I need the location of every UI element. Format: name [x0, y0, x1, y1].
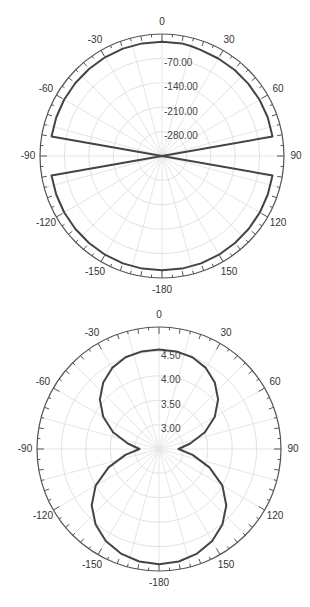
radial-label: -280.00	[164, 130, 198, 141]
radial-label: 3.50	[161, 399, 181, 410]
polar-chart-bottom: 0306090120150-180-150-120-90-60-304.504.…	[0, 300, 310, 607]
angle-label: 150	[218, 559, 235, 570]
angle-label: 0	[159, 16, 165, 27]
angle-label: 0	[156, 309, 162, 320]
polar-plot-bottom: 0306090120150-180-150-120-90-60-304.504.…	[0, 300, 310, 607]
angle-label: -120	[33, 510, 53, 521]
angle-label: -60	[39, 83, 54, 94]
angle-label: 90	[290, 150, 302, 161]
radial-label: -210.00	[164, 106, 198, 117]
angle-label: -150	[85, 266, 105, 277]
angle-label: 60	[269, 376, 281, 387]
angle-label: 90	[287, 443, 299, 454]
angle-label: 120	[267, 510, 284, 521]
angle-label: -90	[21, 150, 36, 161]
angle-label: 30	[223, 34, 235, 45]
angle-label: -180	[149, 577, 169, 588]
angle-label: 60	[272, 83, 284, 94]
radial-label: 4.00	[161, 374, 181, 385]
angle-label: -180	[152, 284, 172, 295]
angle-label: -150	[82, 559, 102, 570]
angle-label: 30	[220, 327, 232, 338]
angle-label: 150	[221, 266, 238, 277]
angle-label: -30	[88, 34, 103, 45]
polar-plot-top: 0306090120150-180-150-120-90-60-30-70.00…	[0, 0, 310, 300]
angle-label: -60	[36, 376, 51, 387]
angle-label: -120	[36, 217, 56, 228]
angle-label: 120	[270, 217, 287, 228]
radial-label: -70.00	[164, 57, 193, 68]
angle-label: -30	[85, 327, 100, 338]
angle-label: -90	[18, 443, 33, 454]
radial-label: 3.00	[161, 423, 181, 434]
radial-label: -140.00	[164, 81, 198, 92]
polar-chart-top: 0306090120150-180-150-120-90-60-30-70.00…	[0, 0, 310, 300]
